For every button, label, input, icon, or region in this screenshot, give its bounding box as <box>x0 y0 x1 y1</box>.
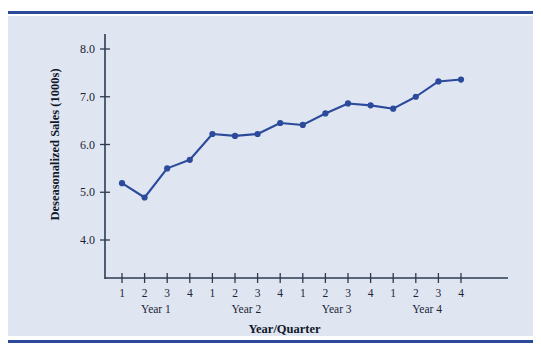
x-group-label: Year 4 <box>412 303 442 315</box>
x-tick-label: 3 <box>164 287 170 299</box>
x-tick-label: 4 <box>458 287 464 299</box>
x-tick-label: 3 <box>255 287 261 299</box>
x-group-label: Year 3 <box>322 303 352 315</box>
data-point-marker <box>119 180 125 186</box>
x-tick-label: 3 <box>436 287 442 299</box>
data-point-marker <box>142 194 148 200</box>
data-point-marker <box>164 165 170 171</box>
figure-panel: 4.05.06.07.08.0 1234123412341234Year 1Ye… <box>8 16 533 336</box>
data-point-marker <box>322 110 328 116</box>
bottom-rule <box>8 340 533 343</box>
x-tick-label: 1 <box>119 287 125 299</box>
data-point-marker <box>368 102 374 108</box>
x-tick-label: 1 <box>210 287 216 299</box>
data-point-marker <box>255 131 261 137</box>
x-tick-label: 2 <box>413 287 419 299</box>
series-line <box>122 80 461 198</box>
y-tick-label: 7.0 <box>80 90 95 104</box>
x-axis: 1234123412341234Year 1Year 2Year 3Year 4 <box>105 273 508 315</box>
data-point-marker <box>413 94 419 100</box>
x-tick-label: 3 <box>345 287 351 299</box>
x-tick-label: 4 <box>187 287 193 299</box>
x-tick-label: 4 <box>368 287 374 299</box>
y-axis: 4.05.06.07.08.0 <box>80 34 110 279</box>
data-point-marker <box>390 106 396 112</box>
x-tick-label: 2 <box>142 287 148 299</box>
line-chart: 4.05.06.07.08.0 1234123412341234Year 1Ye… <box>8 16 533 336</box>
data-point-marker <box>232 133 238 139</box>
x-axis-title: Year/Quarter <box>248 322 321 336</box>
x-tick-label: 1 <box>300 287 306 299</box>
data-point-marker <box>277 120 283 126</box>
data-series <box>119 76 464 200</box>
y-tick-label: 8.0 <box>80 42 95 56</box>
y-tick-label: 5.0 <box>80 185 95 199</box>
data-point-marker <box>458 76 464 82</box>
y-axis-title: Deseasonalized Sales (1000s) <box>48 68 62 220</box>
y-tick-label: 4.0 <box>80 233 95 247</box>
x-tick-label: 1 <box>390 287 396 299</box>
y-tick-label: 6.0 <box>80 138 95 152</box>
x-tick-label: 2 <box>232 287 238 299</box>
data-point-marker <box>345 100 351 106</box>
x-tick-label: 2 <box>323 287 329 299</box>
data-point-marker <box>209 131 215 137</box>
data-point-marker <box>300 122 306 128</box>
x-group-label: Year 2 <box>231 303 261 315</box>
chart-page: 4.05.06.07.08.0 1234123412341234Year 1Ye… <box>0 0 541 357</box>
x-tick-label: 4 <box>277 287 283 299</box>
x-group-label: Year 1 <box>141 303 171 315</box>
data-point-marker <box>187 157 193 163</box>
data-point-marker <box>435 78 441 84</box>
top-rule <box>8 11 533 14</box>
